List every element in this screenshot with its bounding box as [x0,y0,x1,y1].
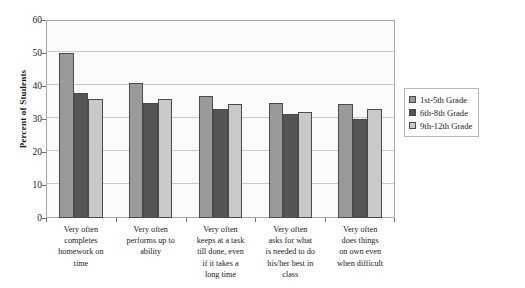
legend-swatch-icon [409,122,416,129]
bar [129,83,144,218]
bar [59,53,74,218]
x-category-label: Very oftenkeeps at a tasktill done, even… [182,224,260,280]
x-tick-mark [186,218,187,222]
x-category-label: Very oftencompleteshomework ontime [42,224,120,269]
bars-layer [46,20,395,218]
bar [298,112,313,218]
bar-group [116,20,186,218]
x-category-label: Very oftenperforms up toability [112,224,190,258]
x-tick-mark [46,218,47,222]
x-tick-mark [325,218,326,222]
bar [353,119,368,218]
x-category-label: Very oftendoes thingson own evenwhen dif… [321,224,399,269]
bar [199,96,214,218]
x-tick-mark [116,218,117,222]
bar-group [255,20,325,218]
x-axis-tick-marks [46,218,395,223]
bar [213,109,228,218]
legend-item[interactable]: 1st-5th Grade [409,93,472,106]
legend-label: 1st-5th Grade [420,95,467,105]
bar-chart: Percent of Students 0102030405060 Very o… [0,0,525,288]
x-axis-category-labels: Very oftencompleteshomework ontimeVery o… [46,224,395,286]
legend-label: 9th-12th Grade [420,121,472,131]
bar [158,99,173,218]
bar [269,103,284,219]
bar [143,103,158,219]
bar [367,109,382,218]
legend-label: 6th-8th Grade [420,108,468,118]
bar [228,104,243,218]
bar-group [325,20,395,218]
y-axis-tick-marks [0,20,50,218]
legend-swatch-icon [409,96,416,103]
legend-item[interactable]: 6th-8th Grade [409,106,472,119]
bar [88,99,103,218]
bar-group [186,20,256,218]
bar-group [46,20,116,218]
x-tick-mark [255,218,256,222]
chart-legend: 1st-5th Grade6th-8th Grade9th-12th Grade [404,88,479,137]
legend-item[interactable]: 9th-12th Grade [409,119,472,132]
bar [74,93,89,218]
bar [338,104,353,218]
legend-swatch-icon [409,109,416,116]
x-category-label: Very oftenasks for whatis needed to dohi… [251,224,329,280]
bar [283,114,298,218]
x-tick-mark [394,218,395,222]
